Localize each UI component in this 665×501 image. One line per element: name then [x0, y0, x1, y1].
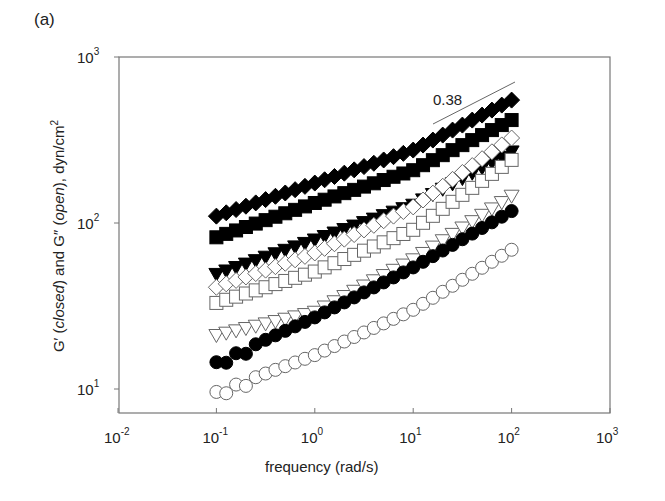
axis-ticks: 10-210-1100101102103101102103 [77, 46, 619, 446]
y-tick-label: 101 [77, 378, 100, 398]
x-tick-label: 100 [301, 426, 324, 446]
x-tick-label: 101 [399, 426, 422, 446]
x-tick-label: 10-1 [202, 426, 228, 446]
x-tick-label: 10-2 [104, 426, 130, 446]
x-tick-label: 103 [596, 426, 619, 446]
chart-plot-area: 10-210-1100101102103101102103 0.38 [0, 0, 665, 501]
slope-label: 0.38 [433, 91, 462, 108]
data-points [208, 92, 519, 400]
y-tick-label: 102 [77, 212, 100, 232]
y-tick-label: 103 [77, 46, 100, 66]
x-tick-label: 102 [498, 426, 521, 446]
